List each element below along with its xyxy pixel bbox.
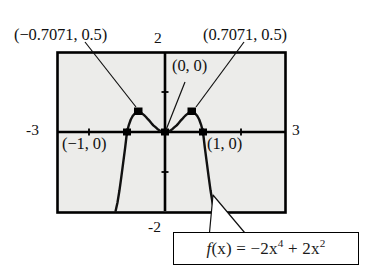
equation-text: f(x) = −2x4 + 2x2 xyxy=(207,239,326,259)
annotation-right-maximum: (0.7071, 0.5) xyxy=(203,27,287,44)
annotation-origin: (0, 0) xyxy=(172,58,207,75)
x-axis-min-label: -3 xyxy=(26,122,39,138)
marker-origin xyxy=(161,129,169,136)
equation-equals-sign: = xyxy=(236,239,246,258)
y-axis-min-label: -2 xyxy=(148,219,161,235)
x-axis-max-label: 3 xyxy=(292,122,300,138)
equation-callout-box: f(x) = −2x4 + 2x2 xyxy=(173,232,359,265)
function-graph-figure: (−0.7071, 0.5) (0.7071, 0.5) (0, 0) (−1,… xyxy=(0,0,388,270)
equation-term1-exponent: 4 xyxy=(278,237,284,249)
y-axis-max-label: 2 xyxy=(154,30,162,46)
equation-plus-sign: + xyxy=(288,239,298,258)
equation-term2-coefficient: 2x xyxy=(302,239,319,258)
annotation-x-intercept-negative-one: (−1, 0) xyxy=(62,136,106,153)
marker-x-pos1 xyxy=(199,129,207,136)
equation-term2-exponent: 2 xyxy=(320,237,326,249)
equation-term1-coefficient: −2x xyxy=(251,239,278,258)
marker-x-neg1 xyxy=(123,129,131,136)
annotation-left-maximum: (−0.7071, 0.5) xyxy=(14,27,107,44)
annotation-x-intercept-positive-one: (1, 0) xyxy=(207,136,242,153)
marker-right-max xyxy=(188,108,197,116)
equation-function-arg: (x) xyxy=(211,239,231,258)
marker-left-max xyxy=(134,108,143,116)
